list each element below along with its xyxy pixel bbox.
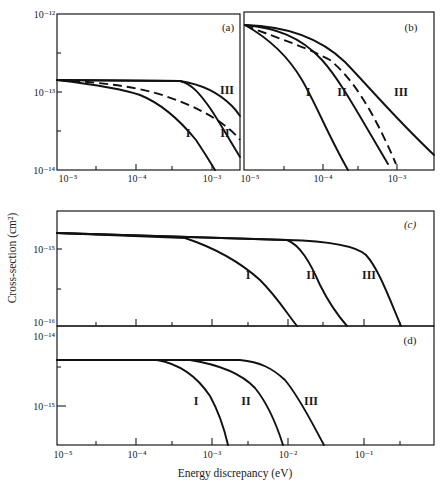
curve-II [245, 25, 388, 164]
panel-c: 10⁻¹⁵ 10⁻¹⁶ (c) I II III [33, 211, 434, 328]
cross-section-figure: Cross-section (cm²) 10⁻¹² 10⁻¹³ 10⁻¹⁴ 10… [0, 0, 444, 487]
y-tick-label: 10⁻¹⁴ [33, 331, 55, 342]
x-tick-label: 10⁻⁴ [314, 173, 333, 184]
panel-d-frame [57, 326, 434, 445]
panel-label: (c) [404, 218, 417, 231]
panel-d: 10⁻¹⁴ 10⁻¹⁵ 10⁻⁵ 10⁻⁴ 10⁻³ 10⁻² 10⁻¹ (d)… [33, 326, 434, 460]
panel-a: 10⁻¹² 10⁻¹³ 10⁻¹⁴ 10⁻⁵ 10⁻⁴ 10⁻³ (a) I I… [33, 9, 240, 184]
curve-dashed [245, 25, 396, 164]
x-tick-label: 10⁻⁴ [128, 173, 147, 184]
curve-label-II: II [241, 394, 251, 408]
x-tick-label: 10⁻⁵ [54, 449, 73, 460]
y-axis-label: Cross-section (cm²) [6, 213, 19, 304]
curve-label-II: II [306, 268, 316, 282]
y-tick-label: 10⁻¹⁵ [33, 401, 55, 412]
y-tick-label: 10⁻¹² [34, 9, 55, 20]
y-tick-label: 10⁻¹⁵ [33, 244, 55, 255]
x-tick-label: 10⁻² [279, 449, 297, 460]
y-tick-label: 10⁻¹⁶ [33, 317, 55, 328]
x-tick-label: 10⁻⁵ [59, 173, 78, 184]
curve-label-III: III [304, 394, 318, 408]
y-tick-label: 10⁻¹⁴ [33, 165, 55, 176]
x-axis-label: Energy discrepancy (eV) [178, 467, 293, 480]
curve-I [57, 360, 228, 445]
curve-label-I: I [246, 268, 251, 282]
x-tick-label: 10⁻¹ [355, 449, 373, 460]
curve-label-II: II [337, 85, 347, 99]
curve-III [57, 233, 401, 326]
x-tick-label: 10⁻⁵ [241, 173, 260, 184]
curve-III [57, 360, 324, 445]
x-tick-label: 10⁻³ [203, 449, 221, 460]
curve-label-I: I [194, 394, 199, 408]
curve-label-II: II [220, 126, 230, 140]
panel-b: 10⁻⁵ 10⁻⁴ 10⁻³ (b) I II III [241, 12, 434, 184]
x-tick-label: 10⁻³ [388, 173, 406, 184]
curve-I [57, 233, 297, 326]
y-tick-label: 10⁻¹³ [34, 87, 55, 98]
curve-I [57, 80, 215, 170]
curve-label-I: I [306, 85, 311, 99]
curve-II [57, 233, 347, 326]
curve-label-III: III [394, 85, 408, 99]
x-tick-label: 10⁻³ [203, 173, 221, 184]
curve-I [245, 25, 348, 170]
panel-label: (a) [222, 21, 235, 34]
curve-label-III: III [220, 83, 234, 97]
panel-label: (b) [405, 21, 418, 34]
x-tick-label: 10⁻⁴ [128, 449, 147, 460]
curve-dashed [57, 80, 240, 140]
panel-label: (d) [404, 334, 417, 347]
curve-label-III: III [362, 268, 376, 282]
curve-label-I: I [186, 126, 191, 140]
